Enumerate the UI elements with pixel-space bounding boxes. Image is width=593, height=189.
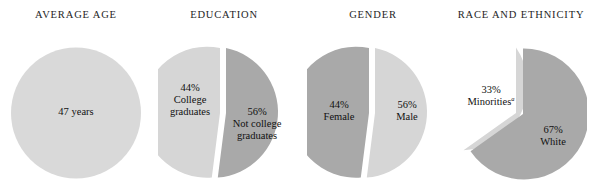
pie-svg-average-age (10, 46, 142, 180)
pie-slice-gender-female (307, 47, 369, 178)
panel-average-age: AVERAGE AGE 47 years (2, 0, 150, 189)
panel-gender: GENDER 44% Female 56% Male (299, 0, 447, 189)
panel-title-average-age: AVERAGE AGE (2, 9, 150, 20)
pie-chart-race-and-ethnicity: 33% Minoritiesa 67% White (455, 46, 587, 180)
pie-chart-gender: 44% Female 56% Male (307, 46, 439, 180)
demographic-pie-chart-figure: AVERAGE AGE 47 years EDUCATION 44% Colle… (0, 0, 593, 189)
pie-svg-education (158, 46, 290, 180)
pie-slice-education-college-graduates (158, 47, 220, 178)
panel-education: EDUCATION 44% College graduates 56% Not … (150, 0, 298, 189)
panel-title-gender: GENDER (299, 9, 447, 20)
pie-slice-education-not-college-graduates (218, 48, 278, 178)
pie-slice-race-white (471, 48, 588, 179)
panel-title-education: EDUCATION (150, 9, 298, 20)
panel-title-race-and-ethnicity: RACE AND ETHNICITY (447, 9, 593, 20)
pie-svg-gender (307, 46, 439, 180)
pie-chart-average-age: 47 years (10, 46, 142, 180)
pie-svg-race-and-ethnicity (455, 46, 587, 180)
pie-slice-average-age (11, 48, 141, 179)
pie-chart-education: 44% College graduates 56% Not college gr… (158, 46, 290, 180)
pie-slice-gender-male (367, 48, 427, 178)
panel-race-and-ethnicity: RACE AND ETHNICITY 33% Minoritiesa 67% W… (447, 0, 593, 189)
